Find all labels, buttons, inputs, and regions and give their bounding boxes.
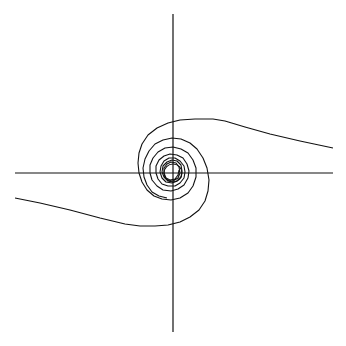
phase-portrait-plot xyxy=(0,0,346,346)
